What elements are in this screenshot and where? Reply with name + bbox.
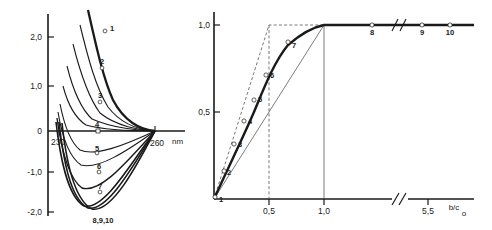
left-yticklabel-2: 0	[37, 126, 42, 136]
right-x-axis-label-numerator: b/c	[449, 203, 460, 212]
figure-container: 2,0 1,0 0 -1,0 -2,0 230 260 nm	[0, 0, 492, 230]
left-xticklabel-260: 260	[150, 138, 164, 148]
data-point-label-8: 8	[370, 28, 374, 37]
data-point-label-6: 6	[270, 71, 274, 80]
left-marker-2	[100, 66, 104, 70]
left-marker-1	[103, 29, 107, 33]
data-point-10	[448, 23, 452, 27]
data-point-2	[222, 169, 226, 173]
data-point-label-10: 10	[446, 28, 454, 37]
left-curve-1	[88, 10, 155, 131]
right-x-axis-label-subscript: o	[462, 209, 467, 218]
data-point-label-9: 9	[420, 28, 424, 37]
left-curve-label-2: 2	[100, 57, 104, 66]
left-curve-label-3: 3	[98, 91, 102, 100]
right-x-axis-label: b/c o	[449, 203, 467, 218]
data-point-9	[420, 23, 424, 27]
data-point-6	[264, 73, 268, 77]
left-yticklabel-3: -1,0	[27, 167, 42, 177]
left-curve-label-5: 5	[95, 144, 99, 153]
data-point-3	[232, 142, 236, 146]
left-yticklabel-0: 2,0	[30, 32, 42, 42]
right-panel-svg: 1,0 0,5 0,5 1,0 5,5 b/c o	[196, 0, 492, 230]
data-point-1	[213, 195, 217, 199]
left-panel-svg: 2,0 1,0 0 -1,0 -2,0 230 260 nm	[0, 0, 210, 230]
right-panel-binding-isotherm: 1,0 0,5 0,5 1,0 5,5 b/c o	[196, 0, 492, 230]
right-yticklabel-05: 0,5	[198, 107, 210, 117]
left-curve-label-6: 6	[97, 162, 101, 171]
left-yticklabel-1: 1,0	[30, 81, 42, 91]
data-point-4	[242, 119, 246, 123]
data-point-8	[370, 23, 374, 27]
binding-curve	[214, 25, 474, 199]
left-curve-label-7: 7	[98, 182, 102, 191]
data-point-label-1: 1	[219, 195, 223, 204]
left-yticklabel-4: -2,0	[27, 207, 42, 217]
right-xticklabel-10: 1,0	[318, 206, 330, 216]
right-xticklabel-55: 5,5	[422, 206, 434, 216]
left-panel-difference-spectra: 2,0 1,0 0 -1,0 -2,0 230 260 nm	[0, 0, 210, 230]
left-curve-4	[67, 66, 155, 131]
left-x-unit-label: nm	[172, 137, 183, 146]
data-point-label-5: 5	[258, 95, 262, 104]
data-point-7	[286, 40, 290, 44]
data-point-label-7: 7	[292, 41, 296, 50]
left-curve-2	[80, 25, 155, 131]
left-marker-4	[96, 129, 100, 133]
x-axis-break-icon	[392, 193, 406, 205]
data-point-label-3: 3	[238, 140, 242, 149]
left-curve-8	[56, 122, 155, 206]
right-yticklabel-1: 1,0	[198, 20, 210, 30]
left-curve-label-8-9-10: 8,9,10	[93, 216, 114, 225]
data-point-5	[252, 98, 256, 102]
left-curve-label-1: 1	[110, 24, 114, 33]
right-xticklabel-05: 0,5	[263, 206, 275, 216]
data-point-label-2: 2	[227, 168, 231, 177]
left-marker-3	[98, 100, 102, 104]
left-curve-3	[73, 44, 155, 131]
